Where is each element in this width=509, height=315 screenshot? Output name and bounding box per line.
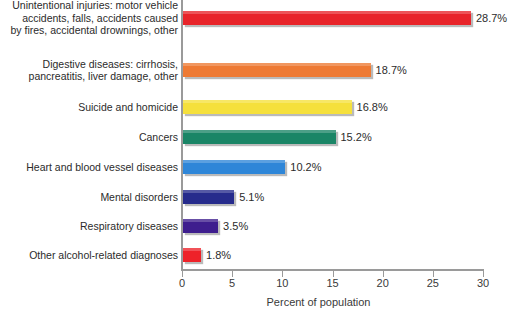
bar-value-label: 1.8%	[206, 249, 231, 261]
bar-fill	[183, 248, 201, 262]
category-label: Mental disorders	[0, 191, 178, 204]
bar-value-label: 3.5%	[223, 220, 248, 232]
bar-fill	[183, 190, 234, 204]
bar-fill	[183, 11, 471, 25]
category-label: Digestive diseases: cirrhosis, pancreati…	[0, 58, 178, 83]
category-label: Respiratory diseases	[0, 220, 178, 233]
bar	[183, 63, 371, 77]
x-axis-tick-label: 15	[326, 277, 338, 289]
bar-value-label: 18.7%	[376, 64, 407, 76]
bar-value-label: 5.1%	[239, 191, 264, 203]
bar-fill	[183, 63, 371, 77]
bar-value-label: 15.2%	[341, 131, 372, 143]
x-axis-tick-label: 10	[276, 277, 288, 289]
bar-value-label: 16.8%	[357, 101, 388, 113]
x-axis-tick-label: 30	[477, 277, 489, 289]
x-axis-tick-label: 25	[427, 277, 439, 289]
bar	[183, 248, 201, 262]
bar	[183, 160, 285, 174]
bar-fill	[183, 100, 352, 114]
bar	[183, 190, 234, 204]
x-axis-title: Percent of population	[0, 296, 509, 308]
bar	[183, 130, 336, 144]
bar-value-label: 28.7%	[476, 12, 507, 24]
x-axis-tick-label: 20	[377, 277, 389, 289]
bar	[183, 11, 471, 25]
category-label: Suicide and homicide	[0, 101, 178, 114]
x-axis-tick-label: 5	[229, 277, 235, 289]
bar-fill	[183, 219, 218, 233]
bar-value-label: 10.2%	[290, 161, 321, 173]
category-label: Other alcohol-related diagnoses	[0, 249, 178, 262]
bar-fill	[183, 130, 336, 144]
category-label: Cancers	[0, 131, 178, 144]
horizontal-bar-chart: 051015202530 Unintentional injuries: mot…	[0, 0, 509, 315]
category-label: Unintentional injuries: motor vehicle ac…	[0, 0, 178, 37]
bar-fill	[183, 160, 285, 174]
x-axis-tick-label: 0	[179, 277, 185, 289]
x-axis-title-text: Percent of population	[267, 296, 371, 308]
bar	[183, 219, 218, 233]
bar	[183, 100, 352, 114]
category-label: Heart and blood vessel diseases	[0, 161, 178, 174]
